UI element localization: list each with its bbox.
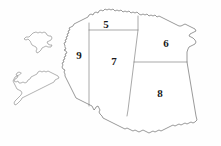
map-canvas [0,0,221,146]
region-map: 5 6 7 8 9 [0,0,221,146]
island-south-shape[interactable] [13,71,59,105]
region-label-7[interactable]: 7 [111,56,117,67]
region-label-9[interactable]: 9 [76,50,82,61]
region-label-5[interactable]: 5 [103,19,109,30]
region-label-8[interactable]: 8 [157,88,163,99]
mainland-outline [62,9,197,133]
island-north-shape[interactable] [24,32,52,53]
region-label-6[interactable]: 6 [163,38,169,49]
